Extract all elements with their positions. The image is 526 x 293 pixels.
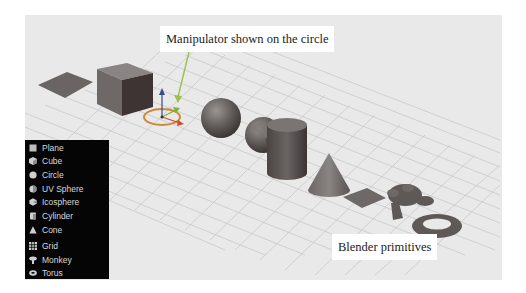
monkey-icon (29, 256, 37, 264)
cone-icon (29, 226, 37, 234)
cone-object (308, 153, 350, 197)
cylinder-icon (29, 212, 37, 220)
uv-sphere-object (201, 98, 241, 138)
uv-sphere-icon (29, 185, 37, 193)
menu-item-circle[interactable]: Circle (29, 168, 64, 181)
menu-item-cylinder[interactable]: Cylinder (29, 209, 73, 222)
menu-item-monkey[interactable]: Monkey (29, 253, 72, 266)
icosphere-icon (29, 198, 37, 206)
plane-object (38, 72, 93, 98)
menu-item-cone[interactable]: Cone (29, 223, 62, 236)
menu-item-grid[interactable]: Grid (29, 239, 58, 252)
menu-item-label: Icosphere (42, 197, 79, 207)
torus-icon (29, 269, 37, 277)
menu-item-label: Monkey (42, 255, 72, 265)
cube-icon (29, 157, 37, 165)
menu-item-label: Torus (42, 268, 63, 278)
add-mesh-menu: Plane Cube Circle UV Sphere Icosphere Cy… (25, 140, 109, 279)
circle-icon (29, 171, 37, 179)
menu-item-icosphere[interactable]: Icosphere (29, 195, 79, 208)
menu-item-label: Circle (42, 170, 64, 180)
caption-label: Blender primitives (332, 234, 437, 260)
plane-icon (29, 144, 37, 152)
menu-item-uv-sphere[interactable]: UV Sphere (29, 182, 84, 195)
cube-object (97, 63, 153, 116)
manipulator-callout: Manipulator shown on the circle (160, 26, 334, 52)
menu-item-label: Grid (42, 241, 58, 251)
menu-item-label: Cylinder (42, 211, 73, 221)
menu-item-label: UV Sphere (42, 184, 84, 194)
grid-icon (29, 242, 37, 250)
menu-item-label: Plane (42, 143, 64, 153)
menu-item-label: Cube (42, 156, 62, 166)
menu-item-label: Cone (42, 225, 62, 235)
menu-item-cube[interactable]: Cube (29, 154, 62, 167)
cylinder-object (267, 118, 307, 180)
menu-item-torus[interactable]: Torus (29, 266, 63, 279)
callout-arrow (174, 48, 190, 103)
menu-item-plane[interactable]: Plane (29, 141, 64, 154)
